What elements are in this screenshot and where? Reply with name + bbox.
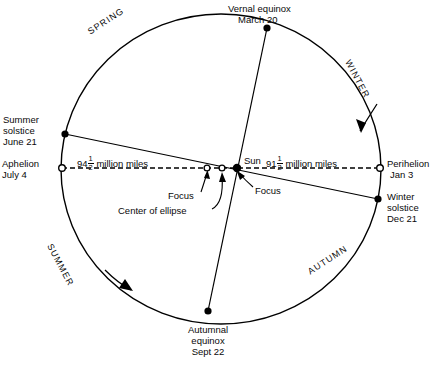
label-winter-solstice-name-1: Winter [387,191,419,202]
marker-empty-focus [204,165,210,171]
label-perihelion-date: Jan 3 [390,169,429,180]
label-aphelion-name: Aphelion [2,158,39,169]
label-distance-aphelion: 9412 million miles [77,155,148,171]
label-sun: Sun [244,155,261,166]
label-winter-solstice-date: Dec 21 [387,213,419,224]
label-summer-solstice: Summer solstice June 21 [3,114,39,147]
label-vernal-equinox: Vernal equinox March 20 [228,3,291,25]
label-autumnal-equinox-name-1: Autumnal [158,324,258,335]
distance-left-unit: million miles [96,158,148,169]
label-focus-right: Focus [255,185,281,196]
label-focus-left: Focus [168,190,194,201]
orbit-diagram-figure: Vernal equinox March 20 Summer solstice … [0,0,443,365]
marker-autumnal-equinox [204,307,211,314]
marker-summer-solstice [61,130,68,137]
label-autumnal-equinox: Autumnal equinox Sept 22 [158,324,258,357]
marker-aphelion [59,165,66,172]
label-perihelion: Perihelion Jan 3 [387,158,429,180]
label-summer-solstice-name-1: Summer [3,114,39,125]
distance-left-fraction: 12 [88,155,94,171]
orbit-direction-arrow-winter [356,104,377,133]
marker-sun [233,164,241,172]
label-autumnal-equinox-date: Sept 22 [158,346,258,357]
marker-perihelion [377,165,384,172]
label-center-of-ellipse: Center of ellipse [118,205,187,216]
label-perihelion-name: Perihelion [387,158,429,169]
label-winter-solstice: Winter solstice Dec 21 [387,191,419,224]
label-autumnal-equinox-name-2: equinox [158,335,258,346]
marker-vernal-equinox [263,24,270,31]
distance-right-unit: million miles [285,158,337,169]
leader-focus-left [201,170,210,192]
label-winter-solstice-name-2: solstice [387,202,419,213]
label-aphelion-date: July 4 [2,169,39,180]
distance-left-whole: 94 [77,158,88,169]
label-summer-solstice-name-2: solstice [3,125,39,136]
distance-right-fraction: 12 [277,155,283,171]
label-distance-perihelion: 9112 million miles [266,155,337,171]
label-vernal-equinox-name: Vernal equinox [228,3,291,14]
diagram-canvas [0,0,443,365]
label-vernal-equinox-date: March 20 [238,14,291,25]
marker-winter-solstice [374,195,381,202]
label-summer-solstice-date: June 21 [3,136,39,147]
leader-center-of-ellipse [212,172,226,209]
distance-right-whole: 91 [266,158,277,169]
label-aphelion: Aphelion July 4 [2,158,39,180]
marker-center-of-ellipse [219,165,225,171]
